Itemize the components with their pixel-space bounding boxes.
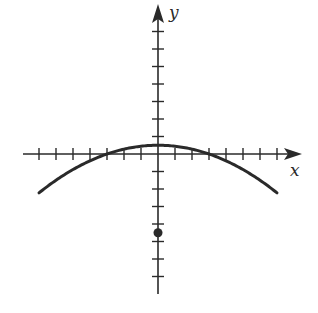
plotted-point	[154, 228, 163, 237]
y-axis-label: y	[168, 2, 179, 22]
function-graph: x y	[0, 0, 318, 313]
x-axis-label: x	[290, 160, 300, 180]
